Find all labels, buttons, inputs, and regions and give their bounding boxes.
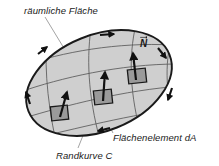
label-area-element: Flächenelement dA xyxy=(113,132,197,143)
area-element-square-right xyxy=(127,68,146,84)
normal-vector-symbol: N xyxy=(140,38,147,49)
label-boundary-curve: Randkurve C xyxy=(56,150,113,161)
area-element-square-left xyxy=(50,105,68,121)
orientation-arrow-1 xyxy=(38,47,47,54)
orientation-arrow-4 xyxy=(168,88,172,100)
label-normal-vector: N xyxy=(140,38,147,49)
label-spatial-surface: räumliche Fläche xyxy=(24,5,98,16)
vector-notation-wrapper: N xyxy=(140,39,147,49)
figure-canvas: räumliche Fläche Randkurve C Flächenelem… xyxy=(0,0,219,166)
orientation-arrow-2 xyxy=(100,34,114,35)
